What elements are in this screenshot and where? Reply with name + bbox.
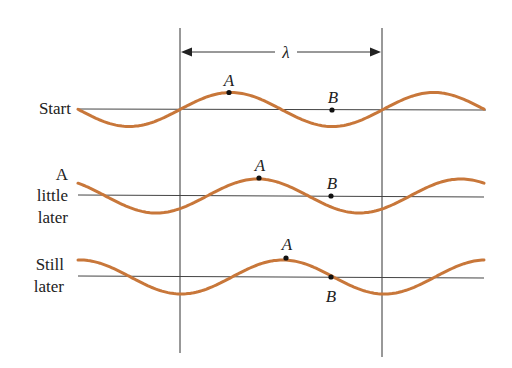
arrowhead-right-icon (370, 48, 381, 57)
row-a-little-later: A little later A B (37, 156, 484, 227)
point-b-label: B (327, 174, 338, 193)
point-a-dot (283, 255, 288, 260)
row-still-later: Still later A B (34, 235, 484, 306)
row-label-line-3: later (38, 208, 69, 227)
point-b-label: B (328, 88, 339, 107)
row-label-line-2: little (37, 186, 68, 205)
point-b-dot (328, 193, 333, 198)
row-label-start: Start (39, 99, 71, 118)
point-a-label: A (281, 235, 293, 254)
point-a-dot (226, 90, 231, 95)
row-label-line-1: Still (36, 255, 65, 274)
point-a-label: A (254, 156, 266, 175)
point-b-dot (329, 107, 334, 112)
wavelength-label: λ (281, 43, 289, 62)
point-b-dot (328, 274, 333, 279)
row-label-line-1: A (56, 165, 69, 184)
point-b-label: B (326, 287, 337, 306)
row-label-line-2: later (34, 277, 65, 296)
wave-diagram: λ Start A B A little later A B Still lat… (0, 0, 512, 368)
point-a-dot (256, 175, 261, 180)
wavelength-arrow: λ (181, 43, 381, 62)
arrowhead-left-icon (181, 48, 192, 57)
row-start: Start A B (39, 71, 486, 127)
equilibrium-axis (78, 276, 484, 278)
equilibrium-axis (78, 195, 484, 197)
point-a-label: A (223, 71, 235, 90)
